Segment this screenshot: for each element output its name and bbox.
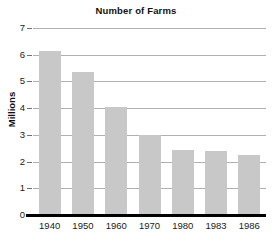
y-tick-mark <box>27 28 32 29</box>
gridline <box>33 28 266 29</box>
x-tick-label: 1986 <box>239 220 260 231</box>
y-tick-label: 7 <box>3 23 25 33</box>
y-tick-label: 3 <box>3 130 25 140</box>
bar <box>39 51 61 214</box>
y-tick-label: 6 <box>3 50 25 60</box>
gridline <box>33 108 266 109</box>
y-tick-label: 4 <box>3 103 25 113</box>
bar <box>238 155 260 214</box>
bar <box>105 107 127 214</box>
y-tick-mark <box>27 135 32 136</box>
x-tick-label: 1980 <box>172 220 193 231</box>
y-tick-label: 5 <box>3 77 25 87</box>
bar-chart: Number of Farms Millions 01234567 194019… <box>0 0 272 249</box>
x-tick-label: 1970 <box>139 220 160 231</box>
chart-title: Number of Farms <box>0 5 272 16</box>
bar <box>172 150 194 214</box>
bar <box>139 135 161 214</box>
x-tick-label: 1940 <box>39 220 60 231</box>
y-tick-mark <box>27 108 32 109</box>
y-tick-mark <box>27 162 32 163</box>
y-tick-mark <box>27 188 32 189</box>
x-tick-label: 1950 <box>72 220 93 231</box>
y-tick-label: 0 <box>3 210 25 220</box>
bar <box>72 72 94 214</box>
x-axis-line <box>26 214 266 217</box>
plot-area: 01234567 1940195019601970198019831986 <box>33 27 266 215</box>
gridline <box>33 55 266 56</box>
bar <box>205 151 227 214</box>
gridline <box>33 81 266 82</box>
y-tick-label: 2 <box>3 157 25 167</box>
x-tick-label: 1983 <box>205 220 226 231</box>
y-tick-mark <box>27 81 32 82</box>
y-tick-mark <box>27 55 32 56</box>
y-tick-label: 1 <box>3 184 25 194</box>
x-tick-label: 1960 <box>106 220 127 231</box>
